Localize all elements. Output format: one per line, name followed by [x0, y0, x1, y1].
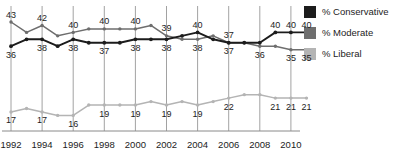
data-label-liberal-1992: 17: [2, 115, 20, 125]
legend-label-moderate: % Moderate: [322, 27, 373, 39]
data-label-conservative-1996: 38: [64, 43, 82, 53]
x-axis-tick-2000: 2000: [119, 139, 151, 150]
x-axis-tick-2002: 2002: [151, 139, 183, 150]
data-label-moderate-2006: 37: [220, 46, 238, 56]
data-label-conservative-2002: 38: [158, 43, 176, 53]
data-label-moderate-1998: 40: [95, 16, 113, 26]
chart-legend: % Conservative % Moderate % Liberal: [304, 6, 389, 60]
data-label-conservative-2004: 40: [189, 20, 207, 30]
data-label-liberal-2002: 19: [158, 109, 176, 119]
data-label-conservative-1994: 38: [33, 43, 51, 53]
data-label-conservative-1992: 36: [2, 50, 20, 60]
legend-swatch-conservative: [304, 6, 316, 18]
x-axis-tick-2010: 2010: [275, 139, 307, 150]
legend-item-conservative: % Conservative: [304, 6, 389, 18]
data-label-moderate-1992: 43: [2, 10, 20, 20]
data-label-conservative-2000: 38: [126, 43, 144, 53]
legend-item-moderate: % Moderate: [304, 27, 389, 39]
data-label-moderate-1994: 42: [33, 13, 51, 23]
data-label-moderate-1996: 40: [64, 20, 82, 30]
line-chart: % Conservative % Moderate % Liberal 1992…: [0, 0, 404, 157]
data-label-liberal-2006: 22: [220, 102, 238, 112]
data-label-moderate-2008: 36: [251, 50, 269, 60]
x-axis-tick-1996: 1996: [57, 139, 89, 150]
data-label-conservative-1998: 37: [95, 46, 113, 56]
x-axis-tick-2006: 2006: [213, 139, 245, 150]
x-axis-tick-2004: 2004: [182, 139, 214, 150]
data-label-liberal-1996: 16: [64, 119, 82, 129]
data-label-liberal-2000: 19: [126, 109, 144, 119]
data-label-conservative-2006: 37: [220, 30, 238, 40]
x-axis-tick-1992: 1992: [0, 139, 27, 150]
x-axis-tick-1998: 1998: [88, 139, 120, 150]
data-label-liberal-1998: 19: [95, 109, 113, 119]
data-label-moderate-2000: 40: [126, 16, 144, 26]
x-axis-tick-1994: 1994: [26, 139, 58, 150]
data-label-liberal-2011: 21: [297, 102, 315, 112]
data-label-moderate-2004: 38: [189, 43, 207, 53]
data-label-moderate-2011: 35: [297, 53, 315, 63]
data-label-moderate-2002: 39: [158, 23, 176, 33]
data-label-conservative-2011: 40: [297, 20, 315, 30]
legend-label-conservative: % Conservative: [322, 6, 389, 18]
legend-label-liberal: % Liberal: [322, 48, 362, 60]
data-label-liberal-2004: 19: [189, 109, 207, 119]
legend-item-liberal: % Liberal: [304, 48, 389, 60]
data-label-liberal-1994: 17: [33, 115, 51, 125]
x-axis-tick-2008: 2008: [244, 139, 276, 150]
